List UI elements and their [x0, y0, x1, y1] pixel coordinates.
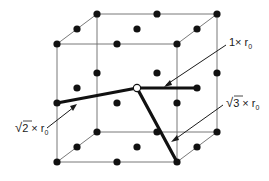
- atoms: [53, 10, 220, 165]
- label-sqrt3-r0: √3 × r0: [226, 95, 259, 111]
- bond-sqrt3-r0: [137, 88, 177, 162]
- cubic-lattice-diagram: 1× r0 √2 × r0 √3 × r0: [0, 0, 269, 181]
- bonds: [57, 88, 197, 162]
- center-atom: [133, 84, 140, 91]
- label-sqrt2-r0: √2 × r0: [15, 120, 48, 136]
- leader-arrows: [47, 45, 226, 142]
- label-1r0: 1× r0: [229, 36, 252, 50]
